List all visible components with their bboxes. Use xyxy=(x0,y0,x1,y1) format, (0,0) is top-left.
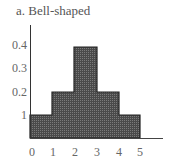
histogram-bars xyxy=(30,47,140,138)
x-tick-label-2: 2 xyxy=(69,145,81,160)
x-tick-label-4: 4 xyxy=(113,145,125,160)
x-tick-label-3: 3 xyxy=(91,145,103,160)
histogram-plot xyxy=(0,0,170,167)
x-tick-label-0: 0 xyxy=(26,145,38,160)
x-tick-label-1: 1 xyxy=(47,145,59,160)
x-tick-label-5: 5 xyxy=(134,145,146,160)
